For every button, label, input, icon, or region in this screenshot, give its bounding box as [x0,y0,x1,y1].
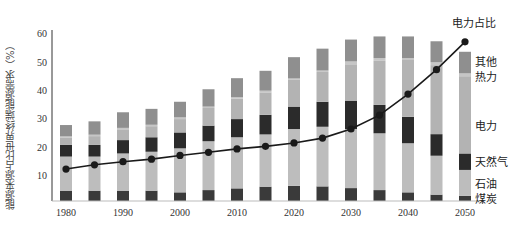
bar-segment [345,188,357,201]
legend-other: 其他 [475,56,497,69]
bar-segment [374,190,386,201]
bar-2000 [174,102,186,201]
bar-segment [146,126,158,137]
bar-segment [402,58,414,60]
y-tick-label: 30 [37,113,47,124]
line-marker [233,145,240,152]
bar-2040 [402,36,414,201]
bar-segment [117,140,129,153]
bar-segment [345,101,357,129]
line-marker [119,158,126,165]
line-marker [347,125,354,132]
bar-segment [174,119,186,132]
bar-segment [203,107,215,108]
bar-segment [146,125,158,126]
legend-heat: 热力 [475,71,497,84]
bar-segment [374,61,386,105]
bar-segment [431,41,443,62]
bar-segment [203,126,215,142]
bar-segment [345,129,357,188]
x-tick-label: 2020 [284,207,304,218]
line-marker [262,143,269,150]
bar-segment [117,129,129,140]
x-tick-label: 1990 [113,207,133,218]
y-tick-label: 20 [37,142,47,153]
bar-segment [117,191,129,201]
bar-segment [402,143,414,192]
bar-segment [260,187,272,201]
line-marker [404,90,411,97]
bar-segment [60,145,72,157]
bar-segment [317,49,329,71]
bar-segment [174,117,186,119]
bar-series-group [60,36,471,201]
bar-segment [459,170,471,196]
line-marker [205,149,212,156]
bar-segment [146,109,158,125]
line-marker [319,135,326,142]
bar-segment [60,138,72,145]
bar-2025 [317,49,329,201]
bar-1995 [146,109,158,201]
bar-2010 [231,78,243,201]
bar-segment [89,135,101,136]
legend-oil: 石油 [475,177,497,191]
bar-segment [231,78,243,97]
bar-segment [89,145,101,157]
bar-1985 [89,121,101,201]
bar-segment [60,136,72,137]
bar-segment [117,112,129,128]
bar-segment [431,156,443,195]
line-marker [433,66,440,73]
bar-segment [231,99,243,119]
bar-segment [146,191,158,201]
bar-segment [317,71,329,72]
bar-segment [60,125,72,136]
bar-segment [288,107,300,129]
bar-segment [203,108,215,126]
bar-segment [117,128,129,129]
legend-electricity: 电力 [475,120,497,133]
bar-segment [402,117,414,143]
bar-segment [402,36,414,58]
bar-segment [89,121,101,134]
bar-1980 [60,125,72,201]
legend-coal: 煤炭 [475,193,497,206]
line-marker [62,165,69,172]
line-marker [376,112,383,119]
bar-segment [260,92,272,114]
line-marker [148,156,155,163]
bar-segment [374,133,386,190]
bar-segment [174,192,186,201]
y-tick-label: 40 [37,85,47,96]
bar-segment [317,186,329,201]
bar-segment [203,89,215,106]
bar-segment [317,72,329,102]
bar-segment [231,137,243,188]
bar-segment [374,105,386,133]
bar-segment [288,78,300,79]
bar-segment [231,97,243,98]
bar-segment [459,153,471,169]
bar-segment [288,186,300,201]
bar-2030 [345,40,357,201]
line-marker [91,161,98,168]
line-marker [461,38,468,45]
bar-segment [317,102,329,127]
bar-segment [431,195,443,201]
y-tick-label: 50 [37,57,47,68]
bar-1990 [117,112,129,201]
line-label: 电力占比 [452,16,496,30]
y-tick-label: 60 [37,28,47,39]
line-marker [290,139,297,146]
bar-segment [459,196,471,201]
bar-segment [89,136,101,145]
line-marker [176,152,183,159]
bar-segment [374,36,386,58]
bar-segment [402,60,414,117]
bar-segment [402,192,414,201]
bar-2035 [374,36,386,201]
bar-segment [146,137,158,151]
bar-segment [174,132,186,148]
bar-segment [60,191,72,201]
